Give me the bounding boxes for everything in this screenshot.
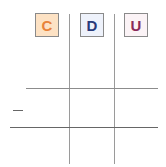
- grid-hline-bottom: [10, 127, 158, 128]
- grid-vline-1: [69, 14, 70, 164]
- header-d: D: [80, 13, 104, 37]
- grid-vline-2: [114, 14, 115, 164]
- header-u: U: [124, 13, 148, 37]
- grid-hline-top: [26, 88, 158, 89]
- row-marker-dash: [13, 110, 23, 111]
- header-c: C: [35, 13, 59, 37]
